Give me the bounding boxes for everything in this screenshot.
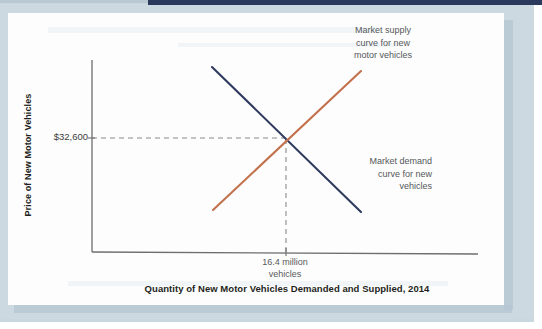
x-tick-label: 16.4 million vehicles	[235, 256, 335, 280]
supply-demand-chart: Price of New Motor Vehicles $32,600 16.4…	[0, 0, 542, 329]
supply-annotation-line3: motor vehicles	[318, 49, 448, 62]
x-tick-label-line2: vehicles	[235, 268, 335, 280]
supply-curve-annotation: Market supply curve for new motor vehicl…	[318, 24, 448, 62]
demand-annotation-line3: vehicles	[312, 180, 432, 193]
demand-annotation-line2: curve for new	[312, 168, 432, 181]
demand-curve-annotation: Market demand curve for new vehicles	[312, 155, 432, 193]
figure-page: Price of New Motor Vehicles $32,600 16.4…	[0, 0, 542, 329]
y-tick-label: $32,600	[32, 131, 88, 142]
supply-annotation-line1: Market supply	[318, 24, 448, 37]
supply-annotation-line2: curve for new	[318, 37, 448, 50]
x-axis-title: Quantity of New Motor Vehicles Demanded …	[92, 283, 482, 294]
x-axis	[92, 252, 478, 254]
x-tick-label-line1: 16.4 million	[235, 256, 335, 268]
demand-annotation-line1: Market demand	[312, 155, 432, 168]
y-axis-title: Price of New Motor Vehicles	[23, 75, 33, 235]
